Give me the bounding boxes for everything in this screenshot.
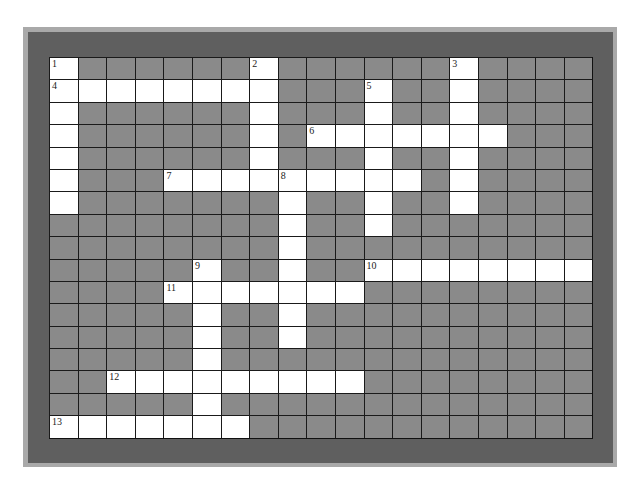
crossword-cell-open[interactable]: 5 [364,79,393,101]
crossword-cell-open[interactable] [163,79,192,101]
crossword-cell-block [421,147,450,169]
crossword-cell-open[interactable] [221,415,250,437]
crossword-cell-open[interactable] [192,169,221,191]
crossword-cell-open[interactable] [478,124,507,146]
crossword-cell-open[interactable] [135,370,164,392]
crossword-cell-open[interactable] [364,124,393,146]
crossword-cell-open[interactable] [221,370,250,392]
crossword-cell-block [106,236,135,258]
crossword-cell-open[interactable] [449,124,478,146]
crossword-cell-open[interactable]: 2 [249,57,278,79]
crossword-cell-open[interactable] [49,102,78,124]
crossword-cell-open[interactable] [306,370,335,392]
crossword-cell-open[interactable] [49,124,78,146]
crossword-cell-block [335,79,364,101]
crossword-cell-block [564,79,593,101]
crossword-cell-open[interactable] [392,259,421,281]
crossword-cell-open[interactable] [78,79,107,101]
crossword-cell-open[interactable] [49,147,78,169]
crossword-cell-open[interactable]: 3 [449,57,478,79]
crossword-cell-open[interactable] [335,281,364,303]
crossword-cell-open[interactable] [221,79,250,101]
crossword-cell-open[interactable] [449,169,478,191]
crossword-cell-open[interactable]: 6 [306,124,335,146]
crossword-cell-open[interactable]: 9 [192,259,221,281]
crossword-cell-open[interactable]: 13 [49,415,78,437]
crossword-cell-open[interactable] [364,169,393,191]
crossword-cell-open[interactable] [49,169,78,191]
crossword-cell-open[interactable] [364,102,393,124]
crossword-cell-open[interactable] [249,102,278,124]
crossword-cell-open[interactable] [478,259,507,281]
crossword-cell-open[interactable] [78,415,107,437]
crossword-cell-open[interactable] [163,415,192,437]
crossword-cell-open[interactable] [278,281,307,303]
crossword-cell-open[interactable] [278,236,307,258]
crossword-cell-open[interactable] [278,214,307,236]
crossword-cell-open[interactable] [249,370,278,392]
crossword-cell-open[interactable]: 4 [49,79,78,101]
crossword-cell-block [535,236,564,258]
crossword-cell-open[interactable] [249,147,278,169]
crossword-cell-open[interactable] [249,281,278,303]
crossword-cell-open[interactable] [306,169,335,191]
crossword-cell-open[interactable] [564,259,593,281]
crossword-cell-open[interactable]: 10 [364,259,393,281]
crossword-cell-open[interactable] [249,124,278,146]
crossword-cell-open[interactable] [335,124,364,146]
crossword-cell-open[interactable] [449,147,478,169]
crossword-cell-open[interactable] [507,259,536,281]
crossword-cell-open[interactable] [535,259,564,281]
crossword-cell-open[interactable] [392,124,421,146]
crossword-cell-open[interactable] [421,124,450,146]
crossword-cell-open[interactable]: 12 [106,370,135,392]
crossword-cell-open[interactable] [192,348,221,370]
crossword-cell-block [478,147,507,169]
crossword-cell-open[interactable]: 8 [278,169,307,191]
crossword-cell-block [564,236,593,258]
crossword-cell-open[interactable] [249,169,278,191]
crossword-cell-open[interactable] [364,214,393,236]
crossword-cell-open[interactable] [335,169,364,191]
crossword-cell-open[interactable] [49,191,78,213]
crossword-cell-open[interactable] [163,370,192,392]
crossword-cell-open[interactable] [392,169,421,191]
crossword-cell-block [392,303,421,325]
crossword-cell-block [78,236,107,258]
crossword-cell-open[interactable] [192,415,221,437]
crossword-cell-open[interactable] [449,79,478,101]
crossword-cell-open[interactable] [449,191,478,213]
crossword-cell-open[interactable] [278,326,307,348]
crossword-cell-open[interactable] [306,281,335,303]
crossword-cell-open[interactable]: 1 [49,57,78,79]
crossword-cell-block [507,415,536,437]
crossword-cell-open[interactable] [221,281,250,303]
crossword-cell-open[interactable] [278,191,307,213]
crossword-cell-open[interactable] [192,393,221,415]
crossword-cell-open[interactable] [278,259,307,281]
crossword-cell-open[interactable] [449,102,478,124]
crossword-cell-open[interactable]: 7 [163,169,192,191]
crossword-cell-open[interactable] [249,79,278,101]
crossword-cell-open[interactable] [221,169,250,191]
crossword-cell-open[interactable] [192,79,221,101]
crossword-cell-open[interactable] [135,79,164,101]
crossword-cell-open[interactable] [106,415,135,437]
crossword-cell-open[interactable] [449,259,478,281]
clue-number: 6 [309,126,314,136]
crossword-cell-open[interactable] [192,370,221,392]
crossword-cell-open[interactable] [106,79,135,101]
crossword-cell-open[interactable] [278,303,307,325]
crossword-cell-open[interactable] [364,147,393,169]
crossword-cell-open[interactable] [192,326,221,348]
crossword-cell-open[interactable] [192,303,221,325]
crossword-cell-open[interactable] [335,370,364,392]
crossword-cell-open[interactable] [421,259,450,281]
crossword-cell-open[interactable] [278,370,307,392]
crossword-cell-open[interactable] [135,415,164,437]
crossword-cell-block [163,57,192,79]
crossword-cell-block [306,191,335,213]
crossword-cell-open[interactable] [192,281,221,303]
crossword-cell-open[interactable] [364,191,393,213]
crossword-cell-open[interactable]: 11 [163,281,192,303]
